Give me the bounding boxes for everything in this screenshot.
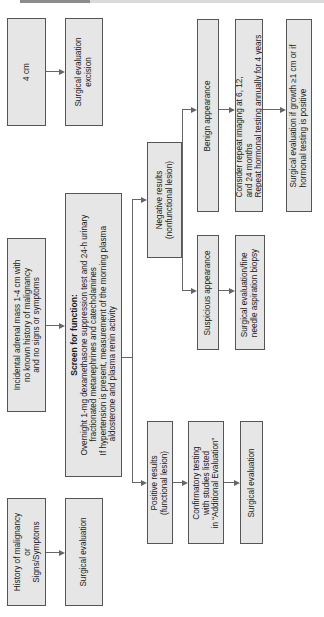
node-text: Surgical evaluation: [247, 448, 256, 517]
node-text: 4 cm: [22, 63, 31, 81]
node-positive-results: Positive results (functional lesion): [147, 421, 173, 544]
connector: [132, 482, 141, 483]
node-consider-repeat-imaging: Consider repeat imaging at 6, 12, and 24…: [235, 19, 263, 212]
node-suspicious-appearance: Suspicious appearance: [197, 235, 219, 350]
node-text: Overnight 1-mg dexamethasone suppression…: [79, 215, 88, 456]
connector: [122, 357, 132, 358]
node-history-of-malignancy: History of malignancy or Signs/Symptoms: [7, 498, 46, 606]
node-text: Benign appearance: [203, 80, 212, 151]
connector: [263, 109, 280, 110]
node-screen-for-function: Screen for function: Overnight 1-mg dexa…: [65, 193, 122, 477]
connector: [132, 199, 133, 483]
node-text: Suspicious appearance: [203, 250, 212, 335]
node-incidental-mass: Incidental adrenal mass 1-4 cm with no k…: [7, 238, 46, 412]
node-text: Consider repeat imaging at 6, 12,: [235, 76, 244, 197]
node-text: History of malignancy: [12, 513, 21, 591]
connector: [182, 109, 183, 291]
connector: [219, 109, 229, 110]
connector: [224, 482, 234, 483]
node-text: (nonfunctional lesion): [165, 161, 174, 239]
connector: [46, 552, 59, 553]
node-text: Signs/Symptoms: [31, 521, 40, 582]
node-benign-appearance: Benign appearance: [197, 19, 219, 212]
node-text: excision: [84, 57, 93, 87]
node-title: Screen for function:: [70, 215, 80, 456]
node-text: hormonal testing is positive: [299, 88, 308, 187]
header-bar-accent: [20, 0, 90, 3]
node-text: Surgical evaluation: [74, 37, 83, 106]
node-text: in “Additional Evaluation”: [211, 437, 220, 528]
node-text: Negative results: [155, 171, 164, 230]
node-text: Surgical evaluation/fine: [240, 252, 249, 337]
connector: [46, 325, 59, 326]
node-surgical-if-growth: Surgical evaluation if growth ≥1 cm or i…: [286, 19, 312, 212]
node-text: Positive results: [150, 455, 159, 510]
node-greater-than-4cm: 4 cm: [7, 18, 46, 126]
node-text: (functional lesion): [160, 450, 169, 514]
node-surgical-excision: Surgical evaluation excision: [65, 18, 103, 126]
node-text: and no signs or symptoms: [31, 277, 40, 373]
node-text: with studies listed: [201, 450, 210, 514]
node-text: Surgical evaluation: [79, 517, 88, 586]
node-negative-results: Negative results (nonfunctional lesion): [147, 142, 182, 258]
node-text: aldosterone and plasma renin activity: [108, 306, 117, 455]
node-text: Confirmatory testing: [192, 446, 201, 519]
node-text: If hypertension is present, measurement …: [98, 226, 107, 455]
connector: [173, 482, 182, 483]
node-text: or: [22, 548, 31, 555]
node-text: Repeat hormonal testing annually for 4 y…: [254, 34, 263, 197]
node-fna-biopsy: Surgical evaluation/fine needle aspirati…: [235, 235, 265, 350]
node-text: needle aspiration biopsy: [250, 248, 259, 336]
node-text: Surgical evaluation if growth ≥1 cm or i…: [289, 44, 298, 187]
connector: [182, 109, 191, 110]
arrow-icon: [59, 550, 65, 556]
arrow-icon: [59, 69, 65, 75]
node-text: fractionated metanephrines and catechola…: [89, 267, 98, 455]
connector: [132, 199, 141, 200]
node-text: Incidental adrenal mass 1-4 cm with: [12, 260, 21, 391]
node-confirmatory-testing: Confirmatory testing with studies listed…: [188, 421, 224, 544]
node-surgical-evaluation-positive: Surgical evaluation: [240, 421, 263, 544]
connector: [182, 290, 191, 291]
node-text: no known history of malignancy: [22, 268, 31, 382]
connector: [46, 71, 59, 72]
node-surgical-evaluation-history: Surgical evaluation: [65, 498, 103, 606]
connector: [219, 290, 229, 291]
node-text: and 24 months: [244, 143, 253, 197]
